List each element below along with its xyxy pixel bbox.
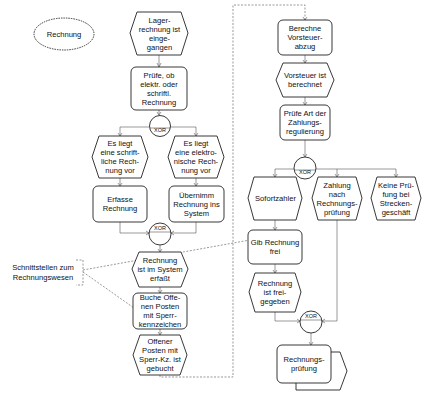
function-buche-label: Buche Offe- nen Posten mit Sperr- kennze… — [133, 293, 187, 329]
event-sofortzahler-label: Sofortzahler — [249, 177, 302, 220]
function-pruefe-label: Prüfe, ob elektr. oder schriftl. Rechnun… — [131, 67, 187, 110]
object-rechnung-label: Rechnung — [34, 18, 94, 50]
function-zahlungsregulierung-label: Prüfe Art der Zahlungs- regulierung — [280, 105, 330, 140]
xor-connector-1 — [150, 116, 171, 137]
event-vorsteuer-label: Vorsteuer ist berechnet — [276, 63, 334, 97]
function-gib-frei-label: Gib Rechnung frei — [248, 230, 302, 264]
event-lagerrechnung-label: Lager- rechnung ist einge- gangen — [132, 12, 187, 55]
xor-label-1: XOR — [150, 127, 170, 133]
function-uebernimm-label: Übernimm Rechnung ins System — [169, 186, 224, 222]
event-elektronisch-label: Es liegt eine elektro- nische Rech- nung… — [169, 136, 223, 178]
event-keine-pruefung-label: Keine Prü- fung bei Strecken- geschäft — [371, 177, 421, 220]
function-vorsteuer-label: Berechne Vorsteuer- abzug — [278, 20, 332, 55]
event-gebucht-label: Offener Posten mit Sperr-Kz. ist gebucht — [134, 335, 186, 375]
annotation-schnittstellen: Schnittstellen zum Rechnungswesen — [8, 263, 78, 283]
event-freigegeben-label: Rechnung ist frei- gegeben — [250, 273, 300, 312]
event-im-system-label: Rechnung ist im System erfaßt — [133, 252, 187, 287]
event-zahlung-nach-label: Zahlung nach Rechnungs- prüfung — [312, 177, 362, 220]
xor-label-3: XOR — [295, 169, 315, 175]
function-erfasse-label: Erfasse Rechnung — [93, 186, 147, 222]
process-interface-label: Rechnungs- prüfung — [277, 345, 331, 383]
event-schriftlich-label: Es liegt eine schrift- liche Rech- nung … — [93, 136, 147, 178]
xor-label-4: XOR — [301, 313, 321, 319]
xor-connector-3 — [294, 157, 316, 179]
xor-label-2: XOR — [150, 225, 170, 231]
